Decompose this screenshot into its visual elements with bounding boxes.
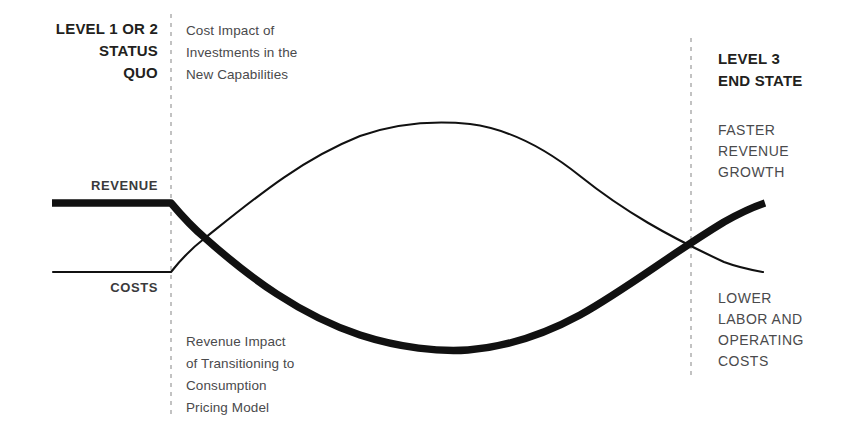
costs-series-label: COSTS: [38, 280, 158, 296]
right-stage-heading: LEVEL 3 END STATE: [718, 48, 848, 92]
revenue-impact-annotation: Revenue Impact of Transitioning to Consu…: [186, 331, 386, 419]
diagram-canvas: LEVEL 1 OR 2 STATUS QUO Cost Impact of I…: [0, 0, 849, 429]
revenue-curve-line: [52, 203, 765, 350]
revenue-series-label: REVENUE: [38, 178, 158, 194]
left-stage-heading: LEVEL 1 OR 2 STATUS QUO: [18, 18, 158, 84]
lower-costs-callout: LOWER LABOR AND OPERATING COSTS: [718, 288, 848, 372]
cost-impact-annotation: Cost Impact of Investments in the New Ca…: [186, 20, 376, 86]
faster-revenue-growth-callout: FASTER REVENUE GROWTH: [718, 120, 848, 183]
costs-curve-line: [53, 123, 763, 272]
